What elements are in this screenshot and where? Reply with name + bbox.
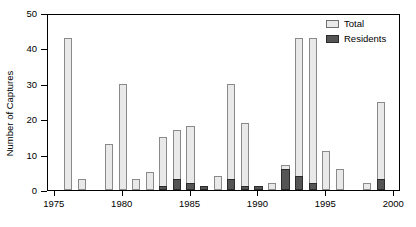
y-tick-mark xyxy=(41,191,47,192)
legend-label-total: Total xyxy=(344,19,364,29)
bar-residents xyxy=(281,169,289,190)
bar-group xyxy=(268,183,276,190)
x-tick-mark xyxy=(54,191,55,196)
bar-residents xyxy=(200,186,208,190)
bar-residents xyxy=(241,186,249,190)
bar-total xyxy=(105,144,113,190)
bar-group xyxy=(295,38,303,190)
bar-total xyxy=(227,84,235,190)
bar-group xyxy=(200,186,208,190)
y-tick-label: 40 xyxy=(0,44,37,54)
bar-group xyxy=(186,126,194,190)
y-tick-label: 10 xyxy=(0,151,37,161)
bar-group xyxy=(281,165,289,190)
bar-total xyxy=(214,176,222,190)
y-tick-label: 50 xyxy=(0,9,37,19)
bar-total xyxy=(241,123,249,190)
bar-total xyxy=(78,179,86,190)
capture-history-bar-chart: Number of Captures 01020304050 197519801… xyxy=(0,0,416,227)
bar-total xyxy=(336,169,344,190)
legend-label-residents: Residents xyxy=(344,34,386,44)
x-tick-label: 1980 xyxy=(99,199,145,209)
bar-group xyxy=(105,144,113,190)
bar-group xyxy=(363,183,371,190)
bar-residents xyxy=(295,176,303,190)
chart-legend: Total Residents xyxy=(326,18,386,45)
bar-residents xyxy=(227,179,235,190)
x-tick-mark xyxy=(325,191,326,196)
bar-residents xyxy=(173,179,181,190)
bar-residents xyxy=(254,186,262,190)
bar-total xyxy=(132,179,140,190)
legend-item-total: Total xyxy=(326,18,386,30)
x-tick-mark xyxy=(257,191,258,196)
bar-total xyxy=(119,84,127,190)
x-tick-label: 1985 xyxy=(167,199,213,209)
x-tick-label: 2000 xyxy=(370,199,416,209)
legend-swatch-residents-icon xyxy=(326,35,339,43)
bar-group xyxy=(377,102,385,191)
x-tick-mark xyxy=(393,191,394,196)
legend-item-residents: Residents xyxy=(326,33,386,45)
bar-residents xyxy=(309,183,317,190)
bar-group xyxy=(78,179,86,190)
bar-group xyxy=(173,130,181,190)
bar-group xyxy=(132,179,140,190)
bar-group xyxy=(119,84,127,190)
x-tick-label: 1995 xyxy=(302,199,348,209)
bar-total xyxy=(159,137,167,190)
bar-total xyxy=(295,38,303,190)
bar-group xyxy=(214,176,222,190)
bar-total xyxy=(363,183,371,190)
x-tick-label: 1975 xyxy=(31,199,77,209)
x-tick-label: 1990 xyxy=(234,199,280,209)
bar-total xyxy=(377,102,385,191)
y-tick-label: 0 xyxy=(0,186,37,196)
bar-residents xyxy=(377,179,385,190)
bar-total xyxy=(146,172,154,190)
legend-swatch-total-icon xyxy=(326,20,339,28)
bar-total xyxy=(64,38,72,190)
bar-group xyxy=(309,38,317,190)
x-tick-mark xyxy=(190,191,191,196)
bar-group xyxy=(241,123,249,190)
bar-group xyxy=(336,169,344,190)
y-tick-label: 20 xyxy=(0,115,37,125)
bar-residents xyxy=(186,183,194,190)
bar-total xyxy=(268,183,276,190)
bar-group xyxy=(64,38,72,190)
bar-group xyxy=(227,84,235,190)
bar-group xyxy=(146,172,154,190)
y-tick-label: 30 xyxy=(0,80,37,90)
bar-group xyxy=(254,186,262,190)
bar-total xyxy=(322,151,330,190)
bar-group xyxy=(322,151,330,190)
bar-total xyxy=(309,38,317,190)
x-tick-mark xyxy=(122,191,123,196)
bar-total xyxy=(186,126,194,190)
bar-group xyxy=(159,137,167,190)
bar-residents xyxy=(159,186,167,190)
